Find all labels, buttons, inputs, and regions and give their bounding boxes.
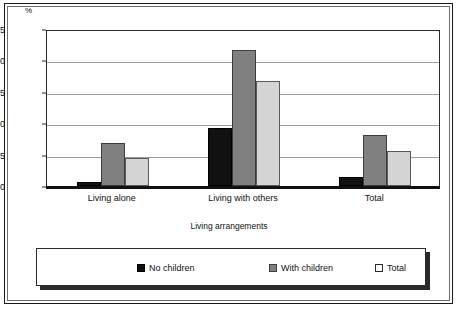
bar-2-2 <box>387 151 411 186</box>
y-axis-tick-mark <box>42 30 46 31</box>
legend-label: No children <box>149 263 195 273</box>
y-axis-tick-mark <box>42 155 46 156</box>
bar-0-2 <box>339 177 363 186</box>
y-axis-tick-label: 20 <box>0 56 5 66</box>
y-axis-unit-label: % <box>25 6 32 15</box>
bar-1-0 <box>101 143 125 186</box>
legend-label: Total <box>387 263 406 273</box>
legend-item-1[interactable]: With children <box>269 263 333 273</box>
bar-2-0 <box>125 158 149 186</box>
bar-1-1 <box>232 50 256 186</box>
bar-0-1 <box>208 128 232 186</box>
bar-2-1 <box>256 81 280 187</box>
plot-area <box>46 30 440 187</box>
y-axis-tick-mark <box>42 92 46 93</box>
legend-item-0[interactable]: No children <box>137 263 195 273</box>
legend-swatch-icon <box>137 264 145 272</box>
x-axis-category-label: Living with others <box>208 193 278 203</box>
y-axis-tick-label: 0 <box>0 182 5 192</box>
y-axis-tick-mark <box>42 61 46 62</box>
chart-figure: % 0510152025 Living aloneLiving with oth… <box>0 0 458 309</box>
x-axis-baseline <box>46 186 440 189</box>
legend-item-2[interactable]: Total <box>375 263 406 273</box>
y-axis-tick-mark <box>42 124 46 125</box>
legend-swatch-icon <box>269 264 277 272</box>
x-axis-category-label: Living alone <box>88 193 136 203</box>
bar-1-2 <box>363 135 387 186</box>
legend-label: With children <box>281 263 333 273</box>
x-axis-category-label: Total <box>365 193 384 203</box>
y-axis-tick-label: 25 <box>0 25 5 35</box>
plot-inner <box>47 31 439 186</box>
legend-items: No childrenWith childrenTotal <box>37 249 425 285</box>
y-axis-tick-label: 15 <box>0 88 5 98</box>
legend-box: No childrenWith childrenTotal <box>36 248 426 286</box>
y-axis-tick-label: 5 <box>0 151 5 161</box>
legend-swatch-icon <box>375 264 383 272</box>
x-axis-title: Living arrangements <box>0 221 458 231</box>
y-axis-tick-label: 10 <box>0 119 5 129</box>
